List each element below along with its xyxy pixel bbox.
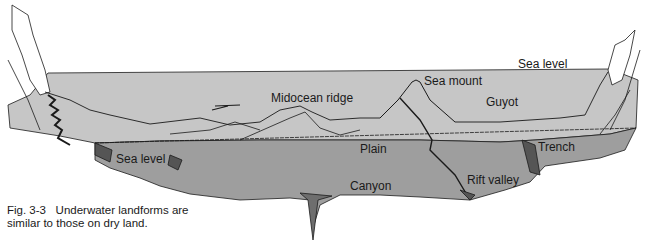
label-trench: Trench <box>538 141 575 153</box>
label-guyot: Guyot <box>486 96 518 108</box>
label-rift-valley: Rift valley <box>467 174 519 186</box>
right-cliff <box>608 30 635 85</box>
caption-line-2: similar to those on dry land. <box>7 217 189 230</box>
label-sea-mount: Sea mount <box>424 75 482 87</box>
label-sea-level-bottom: Sea level <box>116 153 165 165</box>
label-midocean-ridge: Midocean ridge <box>271 92 353 104</box>
left-cliff <box>12 5 50 95</box>
label-canyon: Canyon <box>350 180 391 192</box>
label-sea-level-top: Sea level <box>518 58 567 70</box>
figure-caption: Fig. 3-3 Underwater landforms are simila… <box>7 204 189 230</box>
caption-line-1: Fig. 3-3 Underwater landforms are <box>7 204 189 217</box>
label-plain: Plain <box>360 143 387 155</box>
sea-surface-plane <box>8 69 638 143</box>
